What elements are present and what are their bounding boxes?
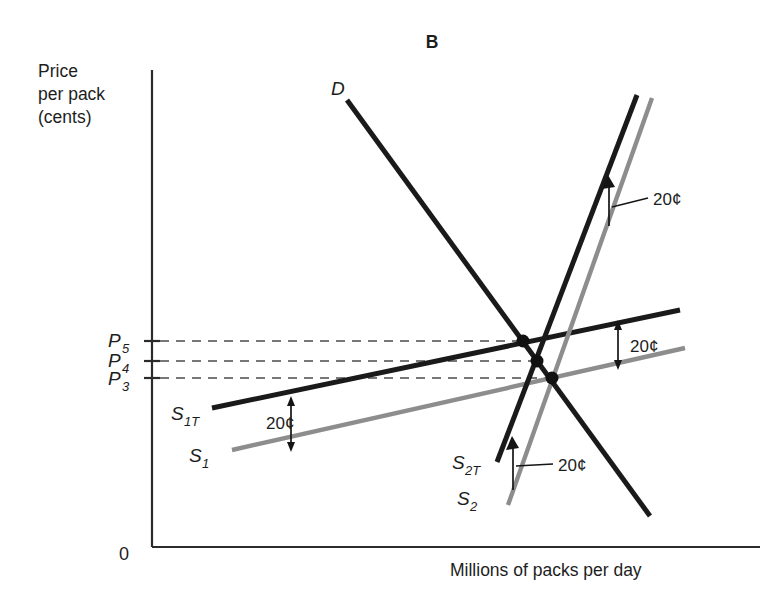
annotation-tax-gap-s1-right bbox=[614, 320, 622, 370]
curve-label-s2t-subscript: 2T bbox=[464, 463, 481, 478]
panel-title: B bbox=[426, 32, 439, 52]
curve-name-labels: D S 1T S 1 S 2T S 2 bbox=[171, 78, 481, 514]
curve-s1t bbox=[212, 310, 680, 408]
tax-label-s2-top: 20¢ bbox=[653, 190, 681, 209]
equilibrium-dot-p3 bbox=[546, 372, 559, 385]
price-label-p3-subscript: 3 bbox=[122, 379, 130, 394]
tax-label-s2-bottom: 20¢ bbox=[558, 456, 586, 475]
x-axis-label: Millions of packs per day bbox=[450, 560, 642, 580]
curve-label-s1t: S bbox=[171, 403, 184, 424]
tax-label-s1-left: 20¢ bbox=[266, 414, 294, 433]
curve-s2 bbox=[508, 98, 652, 505]
y-axis-label-line-1: Price bbox=[38, 61, 78, 81]
annotation-tax-gap-s2-top bbox=[602, 175, 648, 226]
price-label-p4-subscript: 4 bbox=[122, 361, 129, 376]
curve-label-d: D bbox=[331, 78, 345, 99]
curve-label-s1t-subscript: 1T bbox=[184, 414, 200, 429]
price-label-p3: P bbox=[108, 368, 121, 389]
curve-group bbox=[212, 95, 685, 516]
origin-label: 0 bbox=[119, 544, 129, 564]
curve-s2t bbox=[497, 95, 637, 462]
curve-label-s2-subscript: 2 bbox=[469, 499, 478, 514]
tax-gap-s1-arrowhead-down bbox=[287, 442, 295, 452]
axis-group bbox=[152, 70, 760, 547]
tax-label-s1-right: 20¢ bbox=[630, 337, 658, 356]
tax-annotation-labels: 20¢ 20¢ 20¢ 20¢ bbox=[266, 190, 681, 475]
curve-label-s2: S bbox=[457, 488, 470, 509]
chart-canvas: B Price per pack (cents) Millions of pac… bbox=[0, 0, 777, 603]
dashed-guides bbox=[160, 341, 552, 378]
y-axis-label-line-3: (cents) bbox=[38, 107, 91, 127]
price-axis-labels: P 5 P 4 P 3 bbox=[108, 330, 130, 394]
economics-supply-demand-figure: B Price per pack (cents) Millions of pac… bbox=[0, 0, 777, 603]
price-label-p5-subscript: 5 bbox=[122, 341, 130, 356]
curve-label-s1-subscript: 1 bbox=[202, 456, 209, 471]
tax-gap-s1-arrowhead-up bbox=[287, 396, 295, 406]
curve-label-s1: S bbox=[189, 445, 202, 466]
y-axis-label-line-2: per pack bbox=[38, 84, 105, 104]
price-label-p5: P bbox=[108, 330, 121, 351]
equilibrium-dot-p4 bbox=[531, 355, 544, 368]
curve-label-s2t: S bbox=[452, 452, 465, 473]
equilibrium-dot-p5 bbox=[517, 335, 530, 348]
